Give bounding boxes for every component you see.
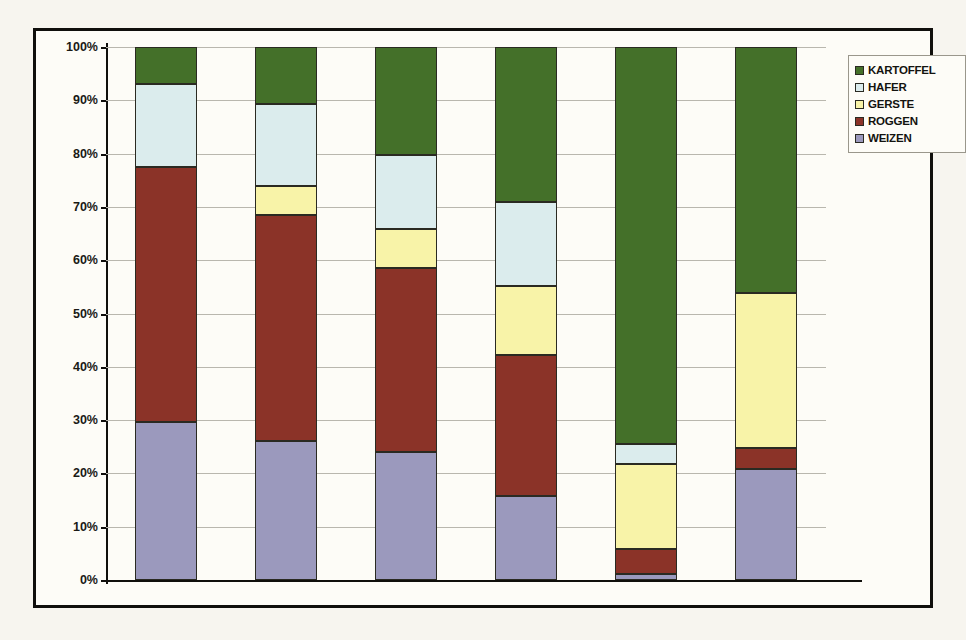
legend-swatch-icon (855, 83, 864, 92)
bar-stack (135, 47, 197, 580)
legend-item-label: ROGGEN (868, 115, 918, 127)
y-axis-tick-label: 50% (73, 307, 98, 321)
y-axis-tick-label: 30% (73, 413, 98, 427)
y-axis-tick-label: 0% (80, 573, 98, 587)
gridline (106, 207, 826, 208)
bar-segment-gerste[interactable] (255, 186, 317, 215)
bar-segment-kartoffel[interactable] (495, 47, 557, 202)
legend-swatch-icon (855, 66, 864, 75)
bar-segment-hafer[interactable] (495, 202, 557, 286)
gridline (106, 154, 826, 155)
gridline (106, 527, 826, 528)
legend-item-label: KARTOFFEL (868, 64, 936, 76)
bar-segment-gerste[interactable] (375, 229, 437, 268)
bar-segment-kartoffel[interactable] (735, 47, 797, 293)
legend-swatch-icon (855, 134, 864, 143)
bar-stack (615, 47, 677, 580)
y-tick-mark (101, 47, 106, 49)
y-tick-mark (101, 100, 106, 102)
legend-item-label: HAFER (868, 81, 907, 93)
bar-segment-gerste[interactable] (495, 286, 557, 355)
y-tick-mark (101, 260, 106, 262)
y-axis-tick-label: 70% (73, 200, 98, 214)
bar-segment-hafer[interactable] (375, 155, 437, 230)
bar-segment-kartoffel[interactable] (255, 47, 317, 104)
y-tick-mark (101, 527, 106, 529)
bar-segment-weizen[interactable] (135, 422, 197, 580)
y-tick-mark (101, 580, 106, 582)
bar-segment-kartoffel[interactable] (135, 47, 197, 84)
gridline (106, 473, 826, 474)
bar-stack (735, 47, 797, 580)
bar-segment-hafer[interactable] (255, 104, 317, 186)
bar-segment-weizen[interactable] (495, 496, 557, 580)
bar-segment-hafer[interactable] (135, 84, 197, 167)
gridline (106, 100, 826, 101)
y-tick-mark (101, 314, 106, 316)
bar-segment-weizen[interactable] (615, 574, 677, 580)
legend-item-label: WEIZEN (868, 132, 912, 144)
x-axis-line (102, 580, 862, 582)
legend-item-weizen[interactable]: WEIZEN (855, 130, 961, 146)
y-axis-tick-label: 60% (73, 253, 98, 267)
chart-legend: KARTOFFELHAFERGERSTEROGGENWEIZEN (848, 55, 966, 153)
bar-segment-weizen[interactable] (375, 452, 437, 580)
gridline (106, 47, 826, 48)
y-tick-mark (101, 473, 106, 475)
bar-segment-kartoffel[interactable] (375, 47, 437, 155)
bar-stack (255, 47, 317, 580)
bar-segment-weizen[interactable] (735, 469, 797, 580)
bar-segment-roggen[interactable] (375, 268, 437, 451)
legend-swatch-icon (855, 117, 864, 126)
y-tick-mark (101, 154, 106, 156)
y-tick-mark (101, 367, 106, 369)
bar-segment-roggen[interactable] (255, 215, 317, 441)
bar-segment-gerste[interactable] (735, 293, 797, 448)
legend-item-hafer[interactable]: HAFER (855, 79, 961, 95)
y-tick-mark (101, 207, 106, 209)
y-axis-tick-label: 80% (73, 147, 98, 161)
bar-stack (495, 47, 557, 580)
bar-segment-roggen[interactable] (615, 549, 677, 574)
figure-frame: 0%10%20%30%40%50%60%70%80%90%100% 193019… (33, 28, 933, 608)
bar-segment-hafer[interactable] (615, 444, 677, 464)
gridline (106, 367, 826, 368)
bar-segment-gerste[interactable] (615, 464, 677, 549)
bar-segment-roggen[interactable] (495, 355, 557, 497)
legend-item-kartoffel[interactable]: KARTOFFEL (855, 62, 961, 78)
bar-segment-weizen[interactable] (255, 441, 317, 580)
legend-item-roggen[interactable]: ROGGEN (855, 113, 961, 129)
gridline (106, 420, 826, 421)
y-axis-tick-label: 40% (73, 360, 98, 374)
bar-stack (375, 47, 437, 580)
bar-segment-roggen[interactable] (135, 167, 197, 422)
legend-item-label: GERSTE (868, 98, 914, 110)
y-axis-tick-label: 20% (73, 466, 98, 480)
gridline (106, 260, 826, 261)
gridline (106, 314, 826, 315)
y-tick-mark (101, 420, 106, 422)
y-axis-tick-label: 100% (66, 40, 98, 54)
bar-segment-kartoffel[interactable] (615, 47, 677, 444)
chart-area: 0%10%20%30%40%50%60%70%80%90%100% 193019… (36, 31, 930, 605)
page-background: 0%10%20%30%40%50%60%70%80%90%100% 193019… (0, 0, 966, 640)
legend-swatch-icon (855, 100, 864, 109)
plot-area: 0%10%20%30%40%50%60%70%80%90%100% 193019… (106, 47, 826, 580)
y-axis-tick-label: 90% (73, 93, 98, 107)
bar-segment-roggen[interactable] (735, 448, 797, 469)
legend-item-gerste[interactable]: GERSTE (855, 96, 961, 112)
y-axis-tick-label: 10% (73, 520, 98, 534)
